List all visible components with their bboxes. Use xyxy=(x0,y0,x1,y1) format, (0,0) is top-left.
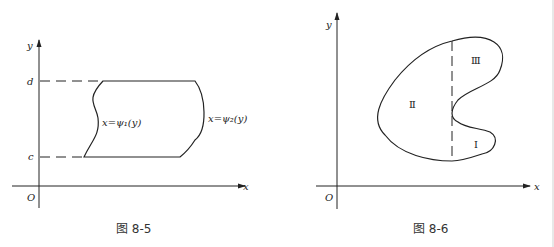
y-axis-label: y xyxy=(325,19,332,30)
figure-8-6: y x O Ⅲ Ⅱ Ⅰ 图 8-6 xyxy=(316,13,540,236)
region-boundary xyxy=(378,37,503,161)
figure-canvas: y x O d c x=ψ₁(y) x=ψ₂(y) 图 8-5 y x O Ⅲ … xyxy=(0,0,554,247)
region-one-label: Ⅰ xyxy=(474,139,478,150)
origin-label: O xyxy=(325,192,333,203)
x-axis-label: x xyxy=(243,181,249,192)
figure-8-5: y x O d c x=ψ₁(y) x=ψ₂(y) 图 8-5 xyxy=(12,40,249,236)
level-c-label: c xyxy=(28,151,34,162)
caption-fig-8-5: 图 8-5 xyxy=(116,222,151,236)
origin-label: O xyxy=(27,192,35,203)
curve-psi1-label: x=ψ₁(y) xyxy=(102,117,141,128)
level-d-label: d xyxy=(27,76,33,87)
region-two-label: Ⅱ xyxy=(409,99,416,110)
y-axis-label: y xyxy=(26,40,33,51)
caption-fig-8-6: 图 8-6 xyxy=(413,222,448,236)
x-axis-label: x xyxy=(534,181,540,192)
curve-psi2-label: x=ψ₂(y) xyxy=(208,113,247,124)
region-three-label: Ⅲ xyxy=(471,55,481,66)
